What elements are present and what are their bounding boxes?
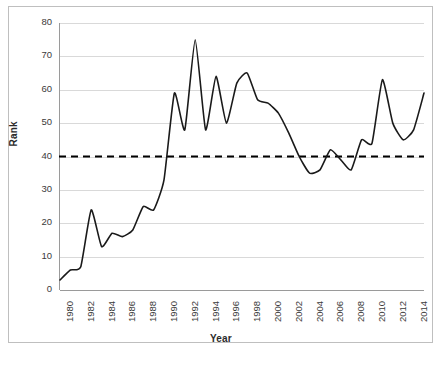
x-tick-label-1982: 1982 — [85, 301, 96, 322]
y-tick-label-70: 70 — [26, 49, 52, 60]
x-tick-label-1998: 1998 — [251, 301, 262, 322]
x-tick-label-2002: 2002 — [293, 301, 304, 322]
y-tick-label-0: 0 — [26, 283, 52, 294]
x-tick-label-1992: 1992 — [189, 301, 200, 322]
y-tick-label-10: 10 — [26, 250, 52, 261]
y-axis-title: Rank — [8, 133, 19, 147]
gridlines — [60, 24, 424, 258]
y-tick-label-80: 80 — [26, 16, 52, 27]
x-tick-label-1996: 1996 — [230, 301, 241, 322]
x-tick-label-2000: 2000 — [272, 301, 283, 322]
y-tick-label-20: 20 — [26, 216, 52, 227]
x-axis-title: Year — [0, 333, 442, 344]
x-tick-label-2008: 2008 — [355, 301, 366, 322]
chart-frame: 01020304050607080 1980198219841986198819… — [8, 6, 433, 343]
line-chart-plot — [9, 7, 432, 342]
x-tick-label-1980: 1980 — [64, 301, 75, 322]
x-tick-label-2010: 2010 — [376, 301, 387, 322]
x-tick-label-2012: 2012 — [397, 301, 408, 322]
y-tick-label-50: 50 — [26, 116, 52, 127]
y-tick-label-60: 60 — [26, 83, 52, 94]
x-tick-label-1994: 1994 — [210, 301, 221, 322]
y-tick-label-30: 30 — [26, 183, 52, 194]
x-tick-label-1984: 1984 — [106, 301, 117, 322]
x-tick-label-1988: 1988 — [147, 301, 158, 322]
y-tick-label-40: 40 — [26, 150, 52, 161]
x-tick-label-2006: 2006 — [334, 301, 345, 322]
x-tick-label-2004: 2004 — [314, 301, 325, 322]
x-tick-label-1990: 1990 — [168, 301, 179, 322]
x-tick-label-1986: 1986 — [126, 301, 137, 322]
clipped-caption-text — [10, 351, 240, 362]
x-tick-label-2014: 2014 — [418, 301, 429, 322]
rank-series-line — [60, 40, 424, 280]
figure-container: 01020304050607080 1980198219841986198819… — [0, 0, 442, 365]
